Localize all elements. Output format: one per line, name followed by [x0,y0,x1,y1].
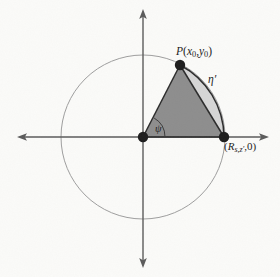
label-psi-symbol: ψ [155,123,162,134]
point-dot-origin [138,132,148,142]
figure-root: P(x0,y0) η′ ψ (Rs,z′,0) [0,0,280,277]
label-p-base: P [176,45,183,57]
circle-triangle-diagram [0,0,280,277]
point-dot-P [175,60,185,70]
label-p-close-paren: ) [208,45,212,57]
label-point-p: P(x0,y0) [176,46,212,60]
label-eta-prime: ′ [214,73,217,85]
label-arc-eta: η′ [208,74,216,86]
label-point-r: (Rs,z′,0) [224,141,256,154]
label-angle-psi: ψ [155,124,162,135]
label-r-close-paren: ) [253,140,257,152]
